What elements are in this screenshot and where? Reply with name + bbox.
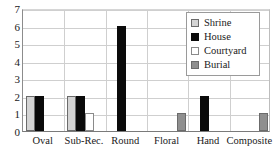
bar [259,113,268,131]
legend-item-label: Shrine [204,18,231,29]
courtyard-swatch-icon [191,47,199,55]
bar [200,96,209,131]
shrine-swatch-icon [191,19,199,27]
y-tick-label: 5 [1,39,20,50]
y-axis: 76543210 [0,9,20,132]
x-tick-label: Floral [154,134,179,147]
bar-group [23,10,64,131]
burial-swatch-icon [191,61,199,69]
legend-item-label: House [204,32,231,43]
bar-group [106,10,147,131]
y-tick-label: 2 [1,92,20,103]
legend-item-label: Courtyard [204,46,247,57]
legend-item-shrine[interactable]: Shrine [191,16,255,30]
legend-item-label: Burial [204,60,230,71]
bar-chart: 76543210 OvalSub-Rec.RoundFloralHandComp… [0,0,275,158]
legend: ShrineHouseCourtyardBurial [186,12,260,76]
x-tick-label: Sub-Rec. [65,134,104,147]
y-tick-label: 0 [1,127,20,138]
legend-item-house[interactable]: House [191,30,255,44]
bar [177,113,186,131]
x-tick-label: Oval [32,134,52,147]
bar [26,96,35,131]
house-swatch-icon [191,33,199,41]
x-tick-label: Hand [197,134,220,147]
y-tick-label: 1 [1,109,20,120]
bar-group [64,10,105,131]
bar [85,113,94,131]
bar [117,26,126,131]
legend-item-courtyard[interactable]: Courtyard [191,44,255,58]
bar-group [147,10,188,131]
bar [76,96,85,131]
x-tick-label: Round [111,134,139,147]
y-tick-label: 6 [1,22,20,33]
x-tick-label: Composite [227,134,273,147]
y-tick-label: 4 [1,57,20,68]
y-tick-label: 7 [1,4,20,15]
x-axis: OvalSub-Rec.RoundFloralHandComposite [22,134,270,154]
bar [35,96,44,131]
legend-item-burial[interactable]: Burial [191,58,255,72]
bar [67,96,76,131]
y-tick-label: 3 [1,74,20,85]
